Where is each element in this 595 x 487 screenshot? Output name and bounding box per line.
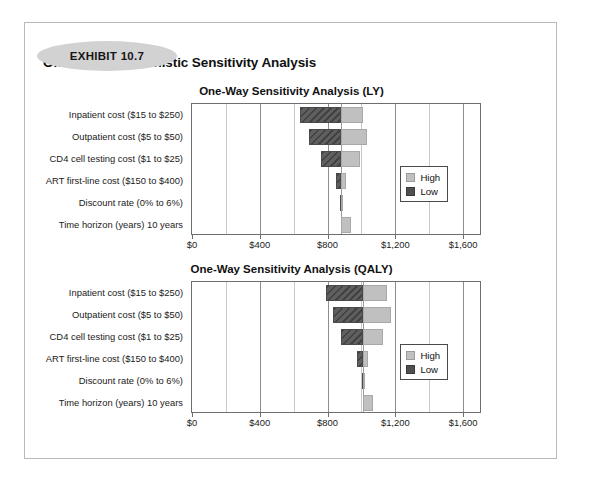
bar-high	[341, 173, 346, 189]
minor-gridline	[226, 282, 227, 412]
x-axis-tick-label: $1,200	[381, 239, 410, 250]
x-axis: $0$400$800$1,200$1,600	[191, 413, 481, 431]
bar-low	[333, 307, 363, 323]
y-axis-label: Inpatient cost ($15 to $250)	[69, 104, 183, 126]
minor-gridline	[226, 104, 227, 234]
x-axis-tick-label: $800	[317, 239, 338, 250]
bar-high	[363, 329, 382, 345]
y-axis-label: ART first-line cost ($150 to $400)	[46, 170, 183, 192]
x-axis: $0$400$800$1,200$1,600	[191, 235, 481, 253]
exhibit-badge-label: EXHIBIT 10.7	[37, 41, 177, 71]
y-axis-label: Time horizon (years) 10 years	[59, 392, 183, 414]
exhibit-page: EXHIBIT 10.7 One-Way Deterministic Sensi…	[24, 22, 557, 459]
y-axis-labels: Inpatient cost ($15 to $250)Outpatient c…	[25, 281, 187, 413]
chart-legend: HighLow	[400, 344, 448, 380]
plot-area: HighLow	[191, 103, 481, 235]
legend-swatch-high-icon	[406, 351, 415, 360]
gridline	[463, 282, 464, 412]
bar-low	[309, 129, 341, 145]
gridline	[328, 282, 329, 412]
legend-label: Low	[420, 364, 438, 375]
bar-high	[341, 195, 343, 211]
bar-high	[363, 307, 391, 323]
bar-high	[341, 217, 351, 233]
y-axis-label: Outpatient cost ($5 to $50)	[72, 126, 183, 148]
gridline	[395, 282, 396, 412]
minor-gridline	[361, 104, 362, 234]
bar-low	[321, 151, 341, 167]
y-axis-label: Discount rate (0% to 6%)	[79, 192, 183, 214]
y-axis-label: CD4 cell testing cost ($1 to $25)	[50, 326, 183, 348]
x-axis-tick-label: $0	[187, 417, 197, 428]
gridline	[328, 104, 329, 234]
gridline	[463, 104, 464, 234]
baseline-line	[363, 282, 364, 412]
chart-legend: HighLow	[400, 166, 448, 202]
y-axis-label: Discount rate (0% to 6%)	[79, 370, 183, 392]
baseline-line	[341, 104, 342, 234]
legend-swatch-low-icon	[406, 187, 415, 196]
gridline	[260, 104, 261, 234]
legend-swatch-high-icon	[406, 173, 415, 182]
y-axis-label: Inpatient cost ($15 to $250)	[69, 282, 183, 304]
x-axis-tick-label: $1,200	[381, 417, 410, 428]
bar-high	[363, 373, 365, 389]
legend-swatch-low-icon	[406, 365, 415, 374]
x-axis-tick-label: $0	[187, 239, 197, 250]
y-axis-label: Outpatient cost ($5 to $50)	[72, 304, 183, 326]
bar-high	[341, 151, 360, 167]
minor-gridline	[294, 104, 295, 234]
y-axis-labels: Inpatient cost ($15 to $250)Outpatient c…	[25, 103, 187, 235]
legend-item-high: High	[406, 348, 440, 362]
x-axis-tick-label: $400	[249, 417, 270, 428]
legend-label: High	[420, 350, 440, 361]
bar-high	[363, 395, 373, 411]
exhibit-badge: EXHIBIT 10.7	[37, 41, 177, 71]
bar-low	[300, 107, 341, 123]
legend-item-low: Low	[406, 184, 440, 198]
chart-title: One-Way Sensitivity Analysis (LY)	[25, 85, 558, 97]
y-axis-label: Time horizon (years) 10 years	[59, 214, 183, 236]
x-axis-tick-label: $1,600	[449, 239, 478, 250]
y-axis-label: ART first-line cost ($150 to $400)	[46, 348, 183, 370]
legend-item-low: Low	[406, 362, 440, 376]
y-axis-label: CD4 cell testing cost ($1 to $25)	[50, 148, 183, 170]
gridline	[395, 104, 396, 234]
x-axis-tick-label: $400	[249, 239, 270, 250]
x-axis-tick-label: $800	[317, 417, 338, 428]
bar-high	[341, 107, 363, 123]
bar-low	[326, 285, 363, 301]
bar-high	[341, 129, 367, 145]
bar-high	[363, 351, 368, 367]
bar-high	[363, 285, 387, 301]
legend-label: High	[420, 172, 440, 183]
chart-title: One-Way Sensitivity Analysis (QALY)	[25, 263, 558, 275]
plot-area: HighLow	[191, 281, 481, 413]
legend-item-high: High	[406, 170, 440, 184]
minor-gridline	[294, 282, 295, 412]
legend-label: Low	[420, 186, 438, 197]
gridline	[260, 282, 261, 412]
bar-low	[341, 329, 363, 345]
x-axis-tick-label: $1,600	[449, 417, 478, 428]
